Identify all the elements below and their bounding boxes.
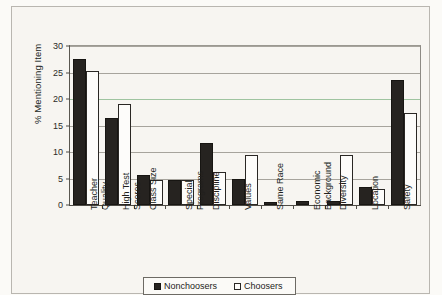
x-axis-label-line: Quality: [99, 178, 110, 210]
x-axis-label: Safety: [402, 184, 413, 210]
y-axis-tick: [66, 72, 70, 73]
x-axis-label-line: Location: [370, 176, 381, 210]
x-axis-label-line: Same Race: [275, 163, 286, 210]
x-axis-label-line: Programs: [195, 171, 206, 210]
legend-item-nonchoosers: Nonchoosers: [154, 281, 217, 291]
y-axis-tick: [66, 125, 70, 126]
y-axis-tick-label: 0: [58, 200, 63, 210]
y-axis-title: % Mentioning Item: [32, 44, 43, 124]
y-axis-tick-label: 25: [53, 68, 63, 78]
x-axis-label: Class Size: [148, 167, 159, 210]
y-axis-tick: [66, 178, 70, 179]
legend-label: Nonchoosers: [164, 281, 217, 291]
y-axis-tick-label: 10: [53, 147, 63, 157]
x-axis-label-line: Discipline: [211, 171, 222, 210]
y-axis-tick-label: 30: [53, 41, 63, 51]
x-axis-label-line: Background: [322, 162, 333, 210]
legend-swatch-icon: [234, 283, 241, 290]
legend-item-choosers: Choosers: [234, 281, 283, 291]
x-axis-label: Discipline: [211, 171, 222, 210]
x-axis-label: TeacherQuality: [89, 178, 110, 210]
scanned-page: % Mentioning Item 051015202530 Nonchoose…: [0, 0, 442, 308]
x-axis-label: Values: [243, 183, 254, 210]
x-axis-label: Location: [370, 176, 381, 210]
x-axis-label-line: Economic: [312, 162, 323, 210]
bar-group: [229, 46, 261, 205]
x-axis-label: Diversity: [338, 175, 349, 210]
x-axis-label-line: Values: [243, 183, 254, 210]
y-axis-tick: [66, 205, 70, 206]
x-axis-label: SpecialPrograms: [184, 171, 205, 210]
y-axis-tick-label: 20: [53, 94, 63, 104]
y-axis-tick: [66, 152, 70, 153]
chart-legend: Nonchoosers Choosers: [143, 277, 296, 295]
x-axis-label-line: Special: [184, 171, 195, 210]
y-axis-tick-label: 15: [53, 121, 63, 131]
page-bottom-margin: [0, 295, 442, 308]
bar-nonchoosers: [168, 180, 181, 205]
x-axis-label-line: Scores: [131, 173, 142, 210]
y-axis-tick: [66, 46, 70, 47]
legend-label: Choosers: [244, 281, 283, 291]
x-axis-label: High TestScores: [121, 173, 142, 210]
x-axis-label: Same Race: [275, 163, 286, 210]
legend-swatch-icon: [154, 283, 161, 290]
x-axis-label: EconomicBackground: [312, 162, 333, 210]
x-axis-label-line: Teacher: [89, 178, 100, 210]
x-axis-label-line: Safety: [402, 184, 413, 210]
x-axis-label-line: High Test: [121, 173, 132, 210]
chart-figure-frame: % Mentioning Item 051015202530 Nonchoose…: [11, 6, 430, 294]
x-axis-label-line: Diversity: [338, 175, 349, 210]
y-axis-tick-label: 5: [58, 174, 63, 184]
bar-group: [388, 46, 420, 205]
x-axis-label-line: Class Size: [148, 167, 159, 210]
y-axis-tick: [66, 99, 70, 100]
bar-nonchoosers: [73, 59, 86, 205]
